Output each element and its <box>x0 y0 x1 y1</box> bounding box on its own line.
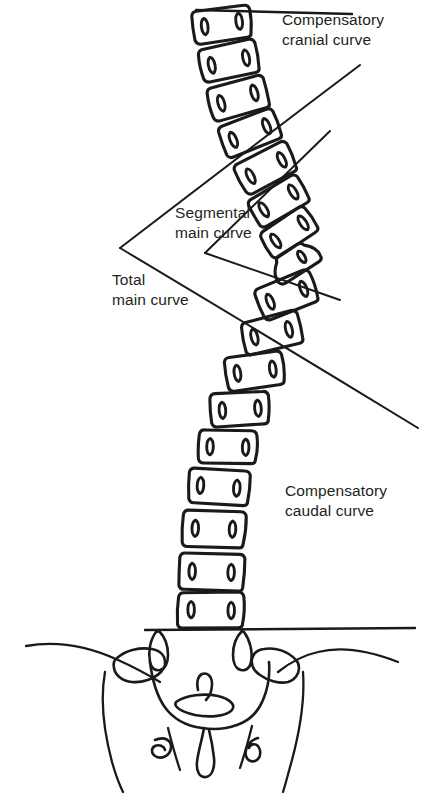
pelvis-sacrum-group <box>26 631 398 792</box>
left-ilium-body <box>103 672 123 792</box>
pedicle-right <box>233 480 240 497</box>
vertebral-body <box>216 106 284 159</box>
label-total-main-curve: Total main curve <box>112 270 189 311</box>
vertebral-column <box>177 5 323 629</box>
pedicle-right <box>235 13 244 30</box>
vertebra <box>232 140 300 197</box>
vertebral-body <box>253 268 321 322</box>
left-sacral-ala <box>114 648 165 682</box>
pedicle-left <box>219 402 227 419</box>
vertebra <box>198 430 258 464</box>
vertebra <box>239 309 305 356</box>
pedicle-left <box>189 563 196 580</box>
right-ilium-body <box>283 672 303 792</box>
pedicle-left <box>257 201 271 218</box>
pedicle-right <box>284 321 294 339</box>
vertebral-body <box>239 309 305 356</box>
pedicle-left <box>192 520 199 537</box>
pedicle-right <box>268 361 277 378</box>
pedicle-left <box>188 602 195 618</box>
pedicle-left <box>264 293 276 311</box>
pedicle-left <box>197 477 204 494</box>
sacral-canal <box>175 695 233 717</box>
pedicle-right <box>296 214 311 231</box>
pedicle-right <box>296 250 308 264</box>
vertebra <box>223 350 286 392</box>
pedicle-right <box>275 151 288 169</box>
vertebra <box>188 468 251 506</box>
right-sacral-ala <box>252 648 299 682</box>
pedicle-left <box>207 57 217 74</box>
vertebra <box>177 592 244 628</box>
sacral-foramen-left <box>152 738 171 757</box>
label-compensatory-caudal-curve: Compensatory caudal curve <box>285 481 387 522</box>
pedicle-right <box>228 602 235 618</box>
vertebra <box>253 268 321 322</box>
pedicle-right <box>228 564 235 581</box>
pedicle-left <box>268 232 283 249</box>
pedicle-right <box>286 183 300 200</box>
vertebra <box>216 106 284 159</box>
pedicle-right <box>249 84 260 102</box>
vertebra <box>179 553 245 591</box>
vertebral-body <box>232 140 300 197</box>
pedicle-left <box>227 131 239 149</box>
pedicle-left <box>200 18 209 35</box>
pedicle-left <box>233 365 242 382</box>
pedicle-left <box>216 95 227 113</box>
vertebral-body <box>257 204 320 260</box>
right-superior-articular-process <box>233 631 252 670</box>
label-compensatory-cranial-curve: Compensatory cranial curve <box>282 10 384 51</box>
scoliosis-cobb-angle-figure <box>0 0 428 795</box>
pedicle-right <box>242 439 249 456</box>
pedicle-left <box>207 438 214 455</box>
vertebra <box>182 510 247 549</box>
vertebra <box>209 390 270 428</box>
sacral-foramen-middle <box>197 728 214 777</box>
label-segmental-main-curve: Segmental main curve <box>175 203 252 244</box>
pedicle-right <box>254 400 262 417</box>
pedicle-left <box>244 167 257 185</box>
pedicle-right <box>241 49 251 66</box>
pedicle-right <box>229 521 236 538</box>
baseline-lines <box>145 10 415 630</box>
vertebra <box>257 204 320 260</box>
